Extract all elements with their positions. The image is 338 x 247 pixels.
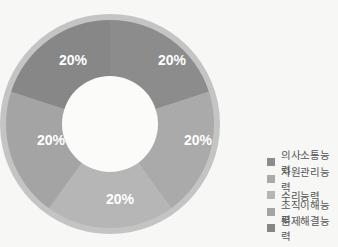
slice-label-5: 20% [59,52,88,68]
slice-label-4: 20% [37,132,66,148]
legend-swatch-icon [267,208,275,216]
legend-swatch-icon [267,191,275,199]
slice-label-1: 20% [158,52,187,68]
slice-label-3: 20% [106,191,135,207]
legend-swatch-icon [267,224,275,232]
legend-item-resource-management: 자원관리능력 [267,171,338,188]
donut-hole [62,76,158,172]
legend-item-problem-solving: 문제해결능력 [267,220,338,237]
legend-label: 문제해결능력 [281,213,338,243]
slice-label-2: 20% [184,132,213,148]
legend: 의사소통능력 자원관리능력 수리능력 조직이해능력 문제해결능력 [267,154,338,237]
legend-swatch-icon [267,158,275,166]
legend-swatch-icon [267,175,275,183]
